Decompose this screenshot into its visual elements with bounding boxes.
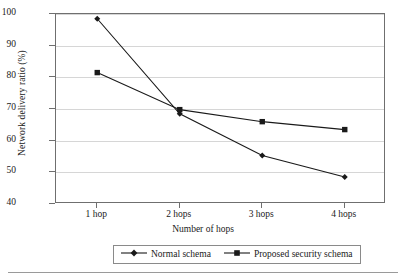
y-axis-tick xyxy=(49,13,55,14)
square-marker-icon xyxy=(224,248,250,260)
y-axis-tick xyxy=(49,76,55,77)
data-point-diamond xyxy=(259,153,265,159)
y-axis-tick xyxy=(49,203,55,204)
legend-item-proposed-security-schema[interactable]: Proposed security schema xyxy=(224,248,353,260)
x-axis-tick xyxy=(96,203,97,208)
legend-label-proposed-security-schema: Proposed security schema xyxy=(254,249,353,259)
x-axis-tick-label: 4 hops xyxy=(309,209,379,219)
legend-item-normal-schema[interactable]: Normal schema xyxy=(121,248,211,260)
y-axis-title: Network delivery ratio (%) xyxy=(17,23,27,183)
data-point-square xyxy=(260,119,265,124)
y-axis-tick-label: 100 xyxy=(0,8,16,18)
y-axis-tick-label: 50 xyxy=(0,167,16,177)
series-line xyxy=(97,19,345,177)
chart-figure: Network delivery ratio (%) 4050607080901… xyxy=(0,0,406,279)
x-axis-tick xyxy=(179,203,180,208)
y-axis-tick-label: 40 xyxy=(0,198,16,208)
series-square xyxy=(95,70,348,132)
data-point-square xyxy=(95,70,100,75)
y-axis-tick-label: 90 xyxy=(0,40,16,50)
bottom-divider xyxy=(8,272,398,273)
x-axis-tick-label: 2 hops xyxy=(144,209,214,219)
x-axis-tick-label: 1 hop xyxy=(61,209,131,219)
series-layer xyxy=(56,14,386,204)
plot-area xyxy=(55,13,385,203)
x-axis-tick xyxy=(344,203,345,208)
legend-label-normal-schema: Normal schema xyxy=(151,249,211,259)
y-axis-tick xyxy=(49,140,55,141)
y-axis-tick xyxy=(49,45,55,46)
data-point-square xyxy=(177,107,182,112)
y-axis-tick-label: 80 xyxy=(0,72,16,82)
chart-legend: Normal schema Proposed security schema xyxy=(113,245,361,264)
data-point-square xyxy=(342,127,347,132)
series-diamond xyxy=(94,16,348,180)
y-axis-tick xyxy=(49,171,55,172)
series-line xyxy=(97,73,345,130)
x-axis-title: Number of hops xyxy=(0,224,406,234)
x-axis-tick xyxy=(261,203,262,208)
x-axis-tick-label: 3 hops xyxy=(226,209,296,219)
diamond-marker-icon xyxy=(121,248,147,260)
y-axis-tick-label: 70 xyxy=(0,103,16,113)
data-point-diamond xyxy=(342,174,348,180)
y-axis-tick-label: 60 xyxy=(0,135,16,145)
y-axis-tick xyxy=(49,108,55,109)
